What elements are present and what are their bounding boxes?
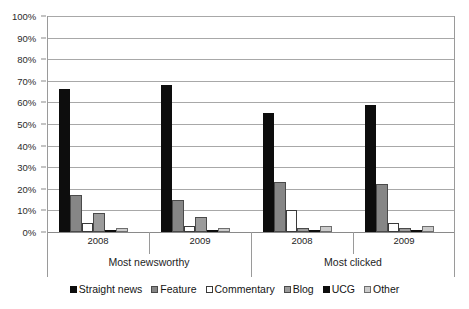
y-axis-tick-mark	[41, 80, 46, 81]
y-axis-tick-label: 30%	[17, 162, 36, 173]
chart-legend: Straight newsFeatureCommentaryBlogUCGOth…	[0, 283, 469, 295]
y-axis-tick-label: 80%	[17, 54, 36, 65]
category-axis-separator	[251, 232, 252, 277]
bar-blog-1	[195, 217, 207, 232]
y-axis-tick-label: 40%	[17, 140, 36, 151]
gridline	[48, 81, 454, 82]
y-axis-tick-mark	[41, 16, 46, 17]
legend-item-commentary[interactable]: Commentary	[206, 283, 275, 295]
legend-swatch-icon	[284, 286, 291, 293]
gridline	[48, 16, 454, 17]
bar-commentary-0	[82, 223, 94, 232]
legend-item-ucg[interactable]: UCG	[323, 283, 355, 295]
legend-item-blog[interactable]: Blog	[284, 283, 314, 295]
gridline	[48, 38, 454, 39]
y-axis-tick-mark	[41, 37, 46, 38]
category-axis-separator	[149, 232, 150, 254]
bar-blog-0	[93, 213, 105, 232]
y-axis-tick-label: 60%	[17, 97, 36, 108]
category-axis-separator	[353, 232, 354, 254]
legend-label: Commentary	[215, 283, 275, 295]
legend-swatch-icon	[206, 286, 213, 293]
bar-straight-news-3	[365, 105, 377, 232]
y-axis-tick-mark	[41, 124, 46, 125]
bar-commentary-2	[286, 210, 298, 232]
category-label-year: 2008	[291, 235, 312, 246]
legend-label: Feature	[160, 283, 196, 295]
category-axis-edge	[47, 232, 48, 277]
legend-item-feature[interactable]: Feature	[151, 283, 196, 295]
y-axis-tick-label: 20%	[17, 183, 36, 194]
category-axis: 2008200920082009Most newsworthyMost clic…	[47, 232, 455, 277]
y-axis-tick-label: 90%	[17, 32, 36, 43]
y-axis-tick-label: 10%	[17, 205, 36, 216]
y-axis-tick-mark	[41, 188, 46, 189]
category-label-year: 2009	[393, 235, 414, 246]
bar-straight-news-0	[59, 89, 71, 232]
legend-label: Blog	[293, 283, 314, 295]
legend-label: Other	[373, 283, 399, 295]
gridline	[48, 146, 454, 147]
bar-feature-2	[274, 182, 286, 232]
bar-feature-0	[70, 195, 82, 232]
legend-item-straight-news[interactable]: Straight news	[70, 283, 143, 295]
y-axis-tick-mark	[41, 102, 46, 103]
category-axis-edge	[454, 232, 455, 277]
category-label-group: Most clicked	[324, 256, 382, 268]
gridline	[48, 189, 454, 190]
gridline	[48, 124, 454, 125]
legend-label: Straight news	[79, 283, 143, 295]
bar-feature-3	[376, 184, 388, 232]
y-axis-tick-mark	[41, 145, 46, 146]
category-label-year: 2008	[87, 235, 108, 246]
y-axis-tick-label: 100%	[12, 11, 36, 22]
bar-straight-news-2	[263, 113, 275, 232]
legend-swatch-icon	[70, 286, 77, 293]
y-axis-tick-mark	[41, 59, 46, 60]
y-axis-tick-label: 70%	[17, 75, 36, 86]
bar-commentary-3	[388, 223, 400, 232]
gridline	[48, 167, 454, 168]
legend-label: UCG	[332, 283, 355, 295]
gridline	[48, 59, 454, 60]
y-axis-tick-label: 0%	[22, 227, 36, 238]
category-label-year: 2009	[189, 235, 210, 246]
bar-chart: 100%90%80%70%60%50%40%30%20%10%0% 200820…	[0, 0, 469, 309]
gridline	[48, 102, 454, 103]
legend-swatch-icon	[151, 286, 158, 293]
bar-straight-news-1	[161, 85, 173, 232]
bar-feature-1	[172, 200, 184, 232]
category-label-group: Most newsworthy	[108, 256, 189, 268]
legend-swatch-icon	[364, 286, 371, 293]
y-axis: 100%90%80%70%60%50%40%30%20%10%0%	[0, 16, 42, 232]
y-axis-tick-mark	[41, 210, 46, 211]
plot-area	[47, 16, 455, 232]
y-axis-tick-mark	[41, 167, 46, 168]
legend-swatch-icon	[323, 286, 330, 293]
gridline	[48, 210, 454, 211]
y-axis-tick-label: 50%	[17, 119, 36, 130]
legend-item-other[interactable]: Other	[364, 283, 399, 295]
y-axis-tick-mark	[41, 232, 46, 233]
